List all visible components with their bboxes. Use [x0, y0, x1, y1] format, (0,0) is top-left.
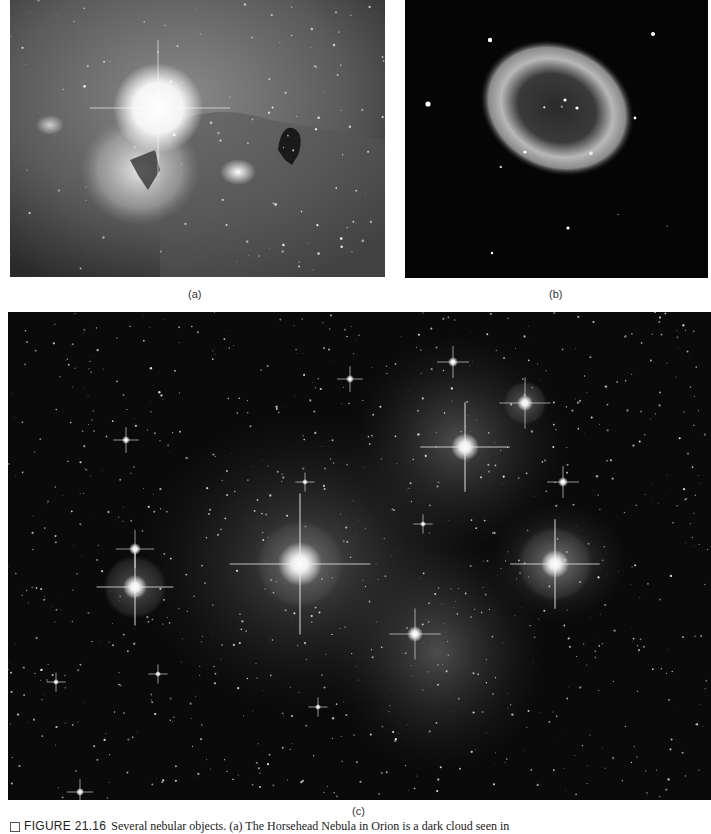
star — [618, 571, 619, 572]
star — [372, 414, 374, 416]
star — [441, 603, 442, 604]
star — [18, 585, 19, 586]
star — [103, 368, 104, 369]
star — [422, 623, 424, 625]
star — [310, 28, 313, 31]
star — [26, 169, 27, 170]
star — [84, 468, 85, 469]
star — [469, 365, 470, 366]
star — [263, 690, 264, 691]
star — [144, 21, 145, 22]
star — [10, 724, 11, 725]
star — [195, 696, 196, 697]
star — [163, 399, 164, 400]
star — [143, 315, 144, 316]
star — [326, 654, 327, 655]
star — [612, 478, 614, 480]
star — [435, 346, 437, 348]
star — [206, 537, 208, 539]
star — [193, 596, 194, 597]
star — [667, 475, 668, 476]
star — [132, 736, 134, 738]
star — [315, 128, 317, 130]
star — [51, 606, 52, 607]
star — [312, 382, 313, 383]
star — [14, 417, 15, 418]
star — [582, 745, 583, 746]
star — [154, 432, 156, 434]
star — [676, 336, 678, 338]
star — [693, 513, 695, 515]
star — [25, 330, 26, 331]
star — [490, 313, 492, 315]
star — [453, 607, 454, 608]
star — [700, 704, 701, 705]
star — [355, 190, 357, 192]
star — [575, 398, 576, 399]
star — [398, 733, 399, 734]
star — [685, 330, 686, 331]
star — [196, 9, 197, 10]
star — [118, 672, 119, 673]
star — [675, 376, 676, 377]
star — [388, 711, 389, 712]
star — [411, 665, 412, 666]
star — [505, 762, 506, 763]
star — [201, 641, 202, 642]
star — [282, 712, 284, 714]
star — [425, 455, 427, 457]
star — [412, 676, 413, 677]
star — [221, 659, 222, 660]
star — [157, 51, 159, 53]
star — [593, 490, 594, 491]
star — [267, 365, 269, 367]
star — [212, 350, 213, 351]
star — [511, 713, 513, 715]
star — [530, 337, 531, 338]
star — [600, 614, 601, 615]
star — [340, 628, 341, 629]
star — [47, 664, 48, 665]
star — [172, 721, 173, 722]
star — [467, 461, 468, 462]
star — [213, 666, 215, 668]
star — [631, 333, 633, 335]
star — [43, 694, 44, 695]
star — [565, 733, 566, 734]
star — [181, 164, 182, 165]
star — [238, 774, 239, 775]
star — [492, 532, 494, 534]
star — [584, 375, 585, 376]
star — [359, 781, 361, 783]
star — [440, 766, 442, 768]
star — [645, 494, 646, 495]
star — [161, 78, 162, 79]
star — [367, 151, 369, 153]
star — [417, 410, 419, 412]
star — [587, 543, 589, 545]
star — [575, 348, 576, 349]
star — [15, 573, 17, 575]
star — [422, 397, 424, 399]
star — [295, 76, 296, 77]
star — [324, 467, 326, 469]
star — [352, 221, 354, 223]
star — [372, 656, 374, 658]
star — [658, 321, 660, 323]
star — [465, 593, 467, 595]
star — [676, 505, 677, 506]
star — [282, 476, 284, 478]
star — [29, 212, 31, 214]
star — [127, 738, 129, 740]
star — [55, 609, 57, 611]
star — [381, 56, 383, 58]
star — [575, 106, 578, 109]
star — [431, 368, 433, 370]
star — [304, 642, 306, 644]
star — [381, 772, 383, 774]
star — [88, 612, 90, 614]
star — [371, 649, 372, 650]
star — [44, 596, 45, 597]
star — [197, 773, 199, 775]
star — [159, 440, 160, 441]
